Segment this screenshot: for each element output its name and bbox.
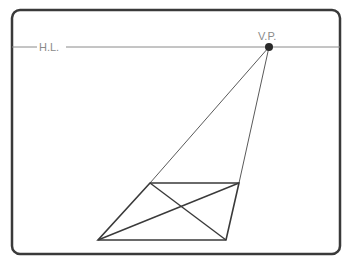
- horizon-line-label: H.L.: [39, 41, 59, 53]
- vanishing-point-dot: [265, 43, 273, 51]
- diagonal-2: [98, 183, 239, 240]
- vanishing-point-label: V.P.: [258, 30, 276, 42]
- perspective-diagram: H.L. V.P.: [0, 0, 353, 265]
- convergence-line-left: [150, 47, 269, 183]
- diagonal-1: [150, 183, 226, 240]
- convergence-line-right: [239, 47, 269, 183]
